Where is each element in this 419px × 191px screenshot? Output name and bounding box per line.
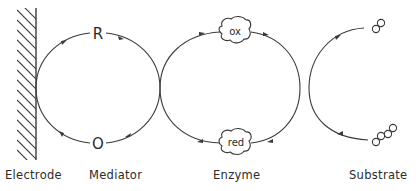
enzyme-reduced-blob: red (219, 128, 251, 154)
arrow-icon (59, 131, 64, 137)
mediator-oxidized-label: O (92, 135, 104, 153)
electrode-label: Electrode (5, 168, 62, 182)
enzyme-cycle (160, 32, 300, 143)
mediator-reduced-label: R (93, 25, 103, 43)
arrow-icon (61, 40, 67, 45)
substrate-molecule-icon (372, 124, 396, 145)
product-molecule-icon (372, 19, 384, 32)
mediator-cycle (36, 33, 160, 143)
enzyme-reduced-label: red (228, 137, 244, 148)
mediator-arrows (59, 36, 131, 137)
arrow-icon (263, 32, 269, 36)
electron-transfer-diagram: R O ox red (0, 0, 419, 191)
enzyme-oxidized-blob: ox (219, 16, 251, 42)
substrate-label: Substrate (349, 168, 407, 182)
arrow-icon (335, 35, 341, 40)
enzyme-label: Enzyme (213, 168, 260, 182)
enzyme-oxidized-label: ox (229, 26, 241, 37)
enzyme-arrows (197, 32, 273, 143)
mediator-label: Mediator (89, 168, 142, 182)
arrow-icon (125, 133, 131, 137)
substrate-arrows (335, 35, 343, 136)
substrate-arc (309, 28, 368, 140)
arrow-icon (267, 139, 273, 143)
